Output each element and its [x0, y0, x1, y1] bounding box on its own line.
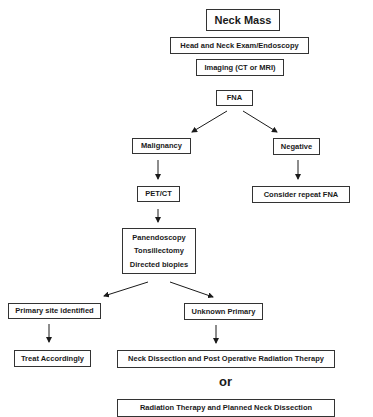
procedure-tonsillectomy: Tonsillectomy [134, 247, 184, 255]
arrow-procedures-primary [104, 282, 148, 296]
or-label: or [219, 374, 232, 389]
node-neck-dissection-post-op-rt: Neck Dissection and Post Operative Radia… [117, 350, 335, 368]
node-head-neck-exam: Head and Neck Exam/Endoscopy [170, 37, 309, 54]
node-rt-planned-neck-dissection: Radiation Therapy and Planned Neck Disse… [117, 399, 335, 417]
node-procedures: Panendoscopy Tonsillectomy Directed biop… [122, 228, 196, 274]
procedure-panendoscopy: Panendoscopy [132, 234, 185, 242]
node-neck-mass: Neck Mass [206, 9, 280, 31]
node-primary-site-identified: Primary site identified [8, 303, 101, 319]
arrow-fna-malignancy [192, 111, 227, 132]
node-negative: Negative [273, 138, 320, 155]
arrow-fna-negative [243, 111, 277, 132]
node-unknown-primary: Unknown Primary [184, 303, 263, 320]
procedure-directed-biopsies: Directed biopies [130, 261, 188, 269]
arrow-procedures-unknown [170, 282, 213, 297]
node-consider-repeat-fna: Consider repeat FNA [252, 186, 350, 203]
node-malignancy: Malignancy [132, 138, 191, 154]
node-fna: FNA [216, 90, 253, 106]
node-pet-ct: PET/CT [137, 186, 180, 202]
node-treat-accordingly: Treat Accordingly [14, 350, 91, 367]
node-imaging: Imaging (CT or MRI) [196, 59, 284, 76]
